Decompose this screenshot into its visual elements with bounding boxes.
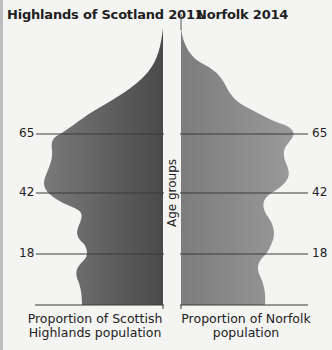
left-age-label-42: 42	[19, 185, 34, 199]
left-age-label-18: 18	[19, 246, 34, 260]
right-axis-caption-line2: population	[178, 326, 314, 340]
norfolk-population-shape	[181, 28, 294, 305]
right-axis-caption-line1: Proportion of Norfolk	[178, 312, 314, 326]
left-age-label-65: 65	[19, 126, 34, 140]
left-axis-caption: Proportion of Scottish Highlands populat…	[20, 312, 170, 340]
left-axis-caption-line2: Highlands population	[20, 326, 170, 340]
age-groups-axis-label: Age groups	[165, 159, 179, 227]
right-age-label-65: 65	[312, 126, 327, 140]
right-age-label-18: 18	[312, 246, 327, 260]
right-axis-caption: Proportion of Norfolk population	[178, 312, 314, 340]
highlands-population-shape	[44, 28, 163, 305]
left-axis-caption-line1: Proportion of Scottish	[20, 312, 170, 326]
right-age-label-42: 42	[312, 185, 327, 199]
